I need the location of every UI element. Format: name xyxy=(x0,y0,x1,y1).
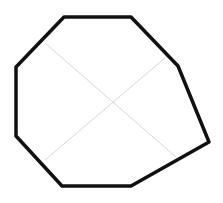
diagram-canvas xyxy=(0,0,223,203)
guide-line xyxy=(45,58,165,160)
guide-line xyxy=(45,43,176,157)
diagonal-guides xyxy=(45,43,176,160)
